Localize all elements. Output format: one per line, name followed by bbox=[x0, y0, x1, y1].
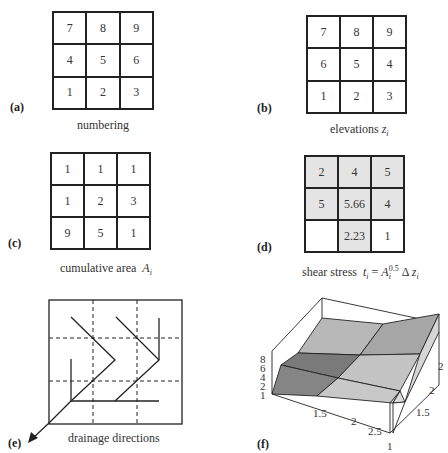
grid-cell: 1 bbox=[371, 220, 404, 252]
grid-cell: 6 bbox=[307, 48, 340, 80]
caption-text: cumulative area bbox=[60, 261, 136, 275]
caption-var: A bbox=[142, 261, 149, 275]
grid-cell: 3 bbox=[373, 81, 406, 113]
flow-paths bbox=[33, 317, 159, 438]
grid-cell: 1 bbox=[307, 81, 340, 113]
svg-text:1: 1 bbox=[387, 440, 393, 452]
surface-3d-plot: 8 6 4 2 1 1.5 2 2.5 1 1.5 2 2 bbox=[250, 290, 448, 453]
svg-text:1.5: 1.5 bbox=[416, 406, 430, 418]
grid-cell-shaded: 2.23 bbox=[338, 220, 371, 252]
grid-cell: 1 bbox=[117, 153, 150, 185]
grid-cell: 1 bbox=[51, 153, 84, 185]
svg-text:2: 2 bbox=[429, 384, 435, 396]
cumulative-area-grid: 1 1 1 1 2 3 9 5 1 bbox=[50, 152, 151, 250]
grid-cell: 9 bbox=[373, 16, 406, 48]
grid-cell: 2 bbox=[86, 77, 119, 109]
formula-delta: Δ bbox=[402, 265, 409, 279]
grid-cell: 2 bbox=[340, 81, 373, 113]
outlet-arrow-icon bbox=[28, 432, 38, 443]
grid-cell: 9 bbox=[51, 217, 84, 249]
x-axis-ticks: 1.5 2 2.5 bbox=[313, 407, 382, 437]
grid-cell-shaded: 4 bbox=[371, 188, 404, 220]
grid-cell: 1 bbox=[53, 77, 86, 109]
panel-label-e: (e) bbox=[8, 436, 21, 451]
caption-drainage-directions: drainage directions bbox=[68, 431, 160, 446]
grid-cell bbox=[305, 220, 338, 252]
caption-sub: i bbox=[386, 129, 388, 138]
caption-text: elevations bbox=[330, 122, 379, 136]
grid-cell-shaded: 5.66 bbox=[338, 188, 371, 220]
svg-text:1.5: 1.5 bbox=[313, 407, 327, 419]
grid-cell-shaded: 4 bbox=[338, 156, 371, 188]
caption-text: shear stress bbox=[302, 265, 357, 279]
grid-cell: 4 bbox=[53, 44, 86, 76]
grid-cell: 3 bbox=[117, 185, 150, 217]
grid-cell: 7 bbox=[307, 16, 340, 48]
panel-label-c: (c) bbox=[8, 236, 21, 251]
svg-text:2: 2 bbox=[438, 360, 444, 372]
grid-cell-shaded: 5 bbox=[305, 188, 338, 220]
elevations-grid: 7 8 9 6 5 4 1 2 3 bbox=[306, 15, 407, 114]
grid-cell: 5 bbox=[340, 48, 373, 80]
svg-text:1: 1 bbox=[260, 389, 266, 401]
grid-cell-shaded: 2 bbox=[305, 156, 338, 188]
panel-label-a: (a) bbox=[10, 100, 24, 115]
formula-A-sub: i bbox=[389, 273, 399, 281]
formula-A: A bbox=[381, 265, 388, 279]
grid-cell: 7 bbox=[53, 12, 86, 44]
z-axis-ticks: 8 6 4 2 1 bbox=[260, 353, 266, 401]
caption-cumulative-area: cumulative area Ai bbox=[60, 261, 152, 277]
grid-cell-shaded: 5 bbox=[371, 156, 404, 188]
caption-sub: i bbox=[150, 268, 152, 277]
svg-text:2.5: 2.5 bbox=[368, 425, 382, 437]
caption-numbering: numbering bbox=[77, 118, 129, 133]
formula-z-sub: i bbox=[416, 272, 418, 281]
drainage-directions-diagram bbox=[0, 295, 200, 435]
caption-elevations: elevations zi bbox=[330, 122, 389, 138]
grid-cell: 3 bbox=[120, 77, 153, 109]
drainage-grid-border bbox=[49, 300, 182, 424]
caption-shear-stress: shear stress ti = A0.5i Δ zi bbox=[302, 265, 419, 281]
grid-cell: 1 bbox=[117, 217, 150, 249]
numbering-grid: 7 8 9 4 5 6 1 2 3 bbox=[52, 11, 154, 110]
grid-cell: 5 bbox=[86, 44, 119, 76]
grid-cell: 1 bbox=[51, 185, 84, 217]
grid-cell: 2 bbox=[84, 185, 117, 217]
grid-cell: 8 bbox=[86, 12, 119, 44]
grid-cell: 1 bbox=[84, 153, 117, 185]
formula-t-sub: i bbox=[366, 272, 368, 281]
grid-cell: 8 bbox=[340, 16, 373, 48]
panel-label-f: (f) bbox=[257, 437, 269, 452]
panel-label-b: (b) bbox=[257, 101, 272, 116]
shear-stress-grid: 2 4 5 5 5.66 4 2.23 1 bbox=[304, 155, 405, 253]
svg-text:2: 2 bbox=[351, 415, 357, 427]
grid-cell: 9 bbox=[120, 12, 153, 44]
grid-cell: 5 bbox=[84, 217, 117, 249]
grid-cell: 6 bbox=[120, 44, 153, 76]
grid-cell: 4 bbox=[373, 48, 406, 80]
panel-label-d: (d) bbox=[257, 240, 272, 255]
formula-equals: = bbox=[372, 265, 379, 279]
